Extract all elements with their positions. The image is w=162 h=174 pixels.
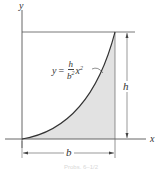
equation-fraction: h b2	[67, 60, 75, 81]
fraction-denominator: b2	[67, 70, 75, 81]
fraction-numerator: h	[68, 60, 75, 70]
curve-equation: y = h b2 x2	[52, 60, 83, 81]
equation-variable: x2	[76, 65, 83, 76]
parabolic-area-diagram	[0, 0, 162, 174]
y-axis-label: y	[19, 1, 23, 11]
equation-lhs: y	[52, 65, 56, 76]
b-arrow-left-icon	[23, 152, 28, 155]
height-dimension-label: h	[122, 81, 130, 92]
figure-caption: Probs. 6–1/2	[40, 164, 122, 170]
denominator-exponent: 2	[72, 70, 75, 76]
shaded-area	[22, 32, 115, 139]
width-dimension-label: b	[64, 147, 74, 158]
variable-exponent: 2	[80, 65, 83, 71]
h-arrow-top-icon	[126, 33, 129, 38]
b-arrow-right-icon	[109, 152, 114, 155]
equation-equals: =	[58, 65, 64, 76]
h-arrow-bottom-icon	[126, 133, 129, 138]
x-axis-label: x	[150, 134, 154, 144]
